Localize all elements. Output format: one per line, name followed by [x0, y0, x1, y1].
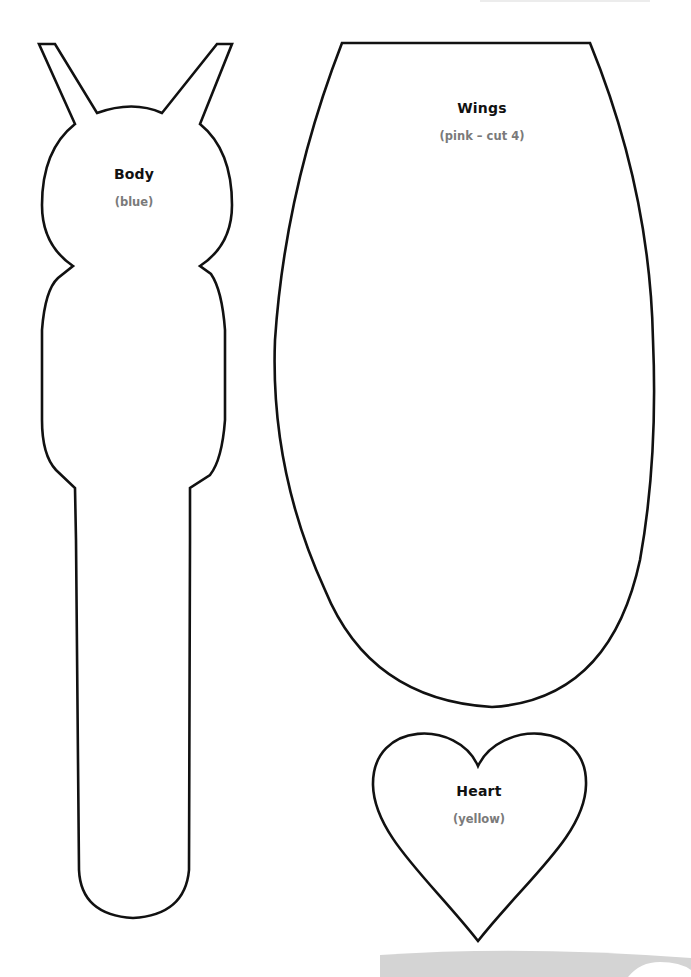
wings-color-note: (pink – cut 4): [440, 129, 525, 143]
wings-label: Wings (pink – cut 4): [440, 100, 525, 143]
heart-color-note: (yellow): [453, 812, 505, 826]
body-title: Body: [114, 166, 154, 182]
heart-label: Heart (yellow): [453, 783, 505, 826]
top-edge-strip: [480, 0, 650, 2]
template-page: Body (blue) Wings (pink – cut 4) Heart (…: [0, 0, 691, 977]
wings-title: Wings: [440, 100, 525, 116]
body-label: Body (blue): [114, 166, 154, 209]
body-color-note: (blue): [114, 195, 154, 209]
heart-outline-shape: [373, 734, 586, 941]
cutout-shapes: [0, 0, 691, 977]
heart-title: Heart: [453, 783, 505, 799]
